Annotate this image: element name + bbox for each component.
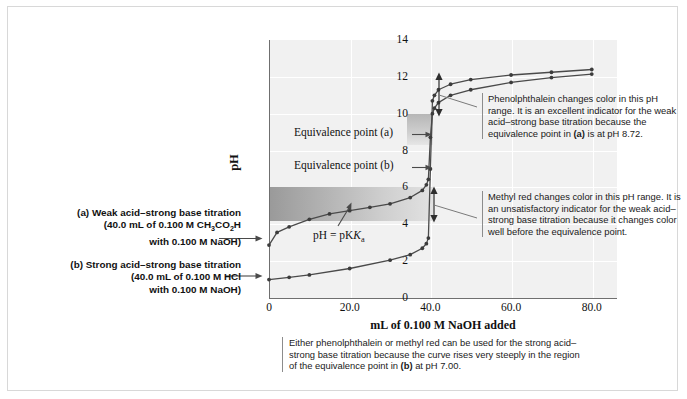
x-tick-0: 0 bbox=[244, 302, 294, 314]
x-tick-60: 60.0 bbox=[486, 302, 536, 314]
pka-text: pH = pK bbox=[313, 229, 353, 241]
caption-bottom: Either phenolphthalein or methyl red can… bbox=[282, 337, 589, 372]
y-tick-14: 14 bbox=[378, 34, 408, 46]
callout-phenolphthalein-text2: is at pH 8.72. bbox=[585, 128, 643, 139]
callout-phenolphthalein: Phenolphthalein changes color in this pH… bbox=[482, 93, 684, 139]
gridline-ph-2 bbox=[270, 261, 617, 262]
gridline-ml-40 bbox=[431, 40, 432, 298]
y-tick-2: 2 bbox=[378, 255, 408, 267]
legend-a-title: (a) Weak acid–strong base titration bbox=[28, 207, 241, 219]
label-ph-equals-pka: pH = pKKa bbox=[313, 229, 365, 244]
legend-b-line2: (40.0 mL of 0.100 M HCl bbox=[28, 271, 241, 283]
label-equivalence-point-b: Equivalence point (b) bbox=[294, 159, 394, 171]
y-tick-12: 12 bbox=[378, 71, 408, 83]
y-tick-4: 4 bbox=[378, 218, 408, 230]
gridline-ml-60 bbox=[512, 40, 513, 298]
x-axis-title: mL of 0.100 M NaOH added bbox=[270, 318, 616, 333]
y-tick-0: 0 bbox=[378, 292, 408, 304]
callout-methyl-red: Methyl red changes color in this pH rang… bbox=[482, 191, 684, 237]
legend-a-line2-end: H bbox=[234, 219, 241, 230]
legend-curve-a: (a) Weak acid–strong base titration (40.… bbox=[28, 207, 241, 248]
x-tick-20: 20.0 bbox=[325, 302, 375, 314]
y-axis-title: pH bbox=[227, 154, 242, 171]
y-tick-8: 8 bbox=[378, 145, 408, 157]
x-tick-40: 40.0 bbox=[405, 302, 455, 314]
caption-bottom-text2: at pH 7.00. bbox=[413, 360, 461, 371]
label-equivalence-point-a: Equivalence point (a) bbox=[294, 126, 393, 138]
phenolphthalein-indicator-band bbox=[407, 114, 433, 145]
gridline-ml-80 bbox=[593, 40, 594, 298]
legend-curve-b: (b) Strong acid–strong base titration (4… bbox=[28, 259, 241, 296]
caption-bottom-bold: (b) bbox=[401, 360, 413, 371]
legend-b-line3: with 0.100 M NaOH) bbox=[28, 284, 241, 296]
figure-container: 14 12 10 8 6 4 2 0 0 20.0 40.0 60.0 80.0… bbox=[7, 6, 678, 391]
gridline-ph-8 bbox=[270, 151, 617, 152]
legend-a-line3: with 0.100 M NaOH) bbox=[28, 236, 241, 248]
legend-a-line2-pre: (40.0 mL of 0.100 M CH bbox=[104, 219, 211, 230]
y-tick-10: 10 bbox=[378, 108, 408, 120]
methyl-red-indicator-band bbox=[270, 187, 433, 220]
legend-a-line2: (40.0 mL of 0.100 M CH3CO2H bbox=[28, 219, 241, 235]
legend-b-title: (b) Strong acid–strong base titration bbox=[28, 259, 241, 271]
legend-a-line2-mid: CO bbox=[215, 219, 230, 230]
x-tick-80: 80.0 bbox=[567, 302, 617, 314]
y-tick-6: 6 bbox=[378, 181, 408, 193]
callout-phenolphthalein-bold: (a) bbox=[573, 128, 584, 139]
gridline-ph-12 bbox=[270, 77, 617, 78]
